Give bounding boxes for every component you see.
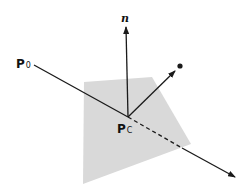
- ray-plane-intersection-diagram: P0 PC n: [0, 0, 248, 193]
- plane-polygon: [83, 77, 191, 184]
- light-source-dot: [177, 63, 182, 68]
- label-p0: P0: [16, 57, 31, 71]
- outgoing-ray-arrow: [182, 148, 235, 177]
- label-normal-n: n: [121, 12, 129, 25]
